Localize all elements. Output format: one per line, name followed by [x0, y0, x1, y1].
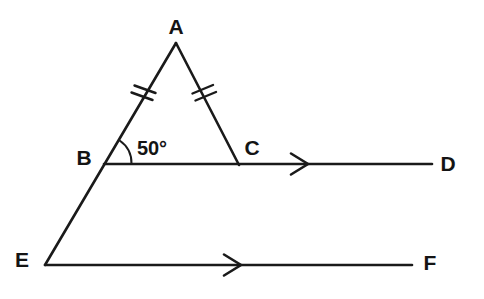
- vertex-label-e: E: [15, 249, 29, 270]
- vertex-label-a: A: [168, 16, 183, 37]
- vertex-label-b: B: [76, 147, 91, 168]
- vertex-label-c: C: [244, 137, 259, 158]
- tick-marks-side-ab: [132, 86, 156, 101]
- segment-a-to-c: [176, 43, 239, 165]
- vertex-label-d: D: [440, 153, 455, 174]
- geometry-diagram: A B C D E F 50°: [0, 0, 484, 299]
- geometry-canvas: [0, 0, 484, 299]
- angle-measure-label: 50°: [137, 138, 167, 158]
- vertex-label-f: F: [424, 252, 437, 273]
- angle-arc-at-b: [120, 141, 132, 165]
